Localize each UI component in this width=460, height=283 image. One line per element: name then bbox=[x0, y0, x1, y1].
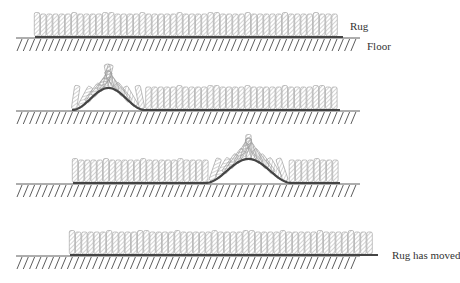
floor-hatch bbox=[231, 185, 236, 197]
floor-hatch bbox=[86, 185, 91, 197]
floor-hatch bbox=[23, 185, 28, 197]
floor-hatch bbox=[168, 112, 173, 124]
floor-hatch bbox=[130, 39, 135, 51]
floor-hatch bbox=[80, 185, 85, 197]
floor-hatch bbox=[99, 112, 104, 124]
floor-hatch bbox=[313, 39, 318, 51]
rug-pile-fibers bbox=[72, 134, 338, 182]
floor-hatch bbox=[250, 112, 255, 124]
floor-hatch bbox=[67, 112, 72, 124]
floor-hatch bbox=[112, 39, 117, 51]
floor-hatch bbox=[351, 39, 356, 51]
floor-hatch bbox=[231, 39, 236, 51]
floor-hatch bbox=[105, 39, 110, 51]
floor-hatch bbox=[124, 185, 129, 197]
floor-hatch bbox=[80, 39, 85, 51]
floor-hatch bbox=[80, 257, 85, 269]
floor-hatch bbox=[231, 112, 236, 124]
floor-hatch bbox=[61, 185, 66, 197]
floor-hatch bbox=[181, 257, 186, 269]
floor-hatch bbox=[49, 257, 54, 269]
floor-hatch bbox=[301, 112, 306, 124]
floor-hatch bbox=[168, 185, 173, 197]
floor-hatch bbox=[181, 39, 186, 51]
floor-hatch bbox=[319, 257, 324, 269]
floor-hatch bbox=[175, 112, 180, 124]
floor-hatch bbox=[187, 185, 192, 197]
floor-hatch bbox=[61, 257, 66, 269]
floor-hatch bbox=[206, 112, 211, 124]
floor-hatch bbox=[175, 185, 180, 197]
floor-hatch bbox=[206, 39, 211, 51]
floor-hatch bbox=[269, 257, 274, 269]
floor-hatch bbox=[36, 112, 41, 124]
floor-hatch bbox=[225, 185, 230, 197]
floor-hatch bbox=[55, 112, 60, 124]
floor-hatch bbox=[156, 185, 161, 197]
floor-hatch bbox=[288, 257, 293, 269]
floor-hatch bbox=[351, 185, 356, 197]
floor-hatch bbox=[288, 112, 293, 124]
floor-hatch bbox=[282, 112, 287, 124]
floor-hatch bbox=[250, 185, 255, 197]
floor-hatch bbox=[130, 112, 135, 124]
floor-hatch bbox=[332, 185, 337, 197]
floor-hatch bbox=[105, 185, 110, 197]
floor-hatch bbox=[42, 112, 47, 124]
floor-hatch bbox=[162, 112, 167, 124]
floor-hatch bbox=[30, 112, 35, 124]
floor-hatch bbox=[219, 112, 224, 124]
floor-hatch bbox=[212, 185, 217, 197]
floor-hatch bbox=[200, 112, 205, 124]
floor-hatch bbox=[93, 185, 98, 197]
floor-label: Floor bbox=[367, 40, 391, 52]
floor-hatch bbox=[275, 185, 280, 197]
floor-hatch bbox=[313, 112, 318, 124]
rug-pile-fibers bbox=[34, 13, 337, 37]
floor-hatch bbox=[23, 257, 28, 269]
floor-hatch bbox=[200, 257, 205, 269]
floor-hatch bbox=[238, 257, 243, 269]
floor-hatch bbox=[332, 39, 337, 51]
floor-hatch bbox=[55, 39, 60, 51]
floor-hatch bbox=[282, 39, 287, 51]
floor-hatch bbox=[181, 185, 186, 197]
floor-hatch bbox=[175, 257, 180, 269]
floor-hatch bbox=[118, 112, 123, 124]
floor-hatch bbox=[345, 39, 350, 51]
floor-hatch bbox=[351, 112, 356, 124]
floor-hatch bbox=[137, 257, 142, 269]
floor-hatch bbox=[256, 185, 261, 197]
floor-hatch bbox=[338, 185, 343, 197]
floor-hatch bbox=[187, 257, 192, 269]
floor-hatch bbox=[212, 112, 217, 124]
floor-hatch bbox=[219, 185, 224, 197]
floor-hatch bbox=[30, 185, 35, 197]
floor-hatch bbox=[326, 112, 331, 124]
floor-hatch bbox=[149, 257, 154, 269]
floor-hatch bbox=[124, 257, 129, 269]
floor-hatch bbox=[193, 112, 198, 124]
floor-hatch bbox=[36, 39, 41, 51]
floor-hatch bbox=[86, 257, 91, 269]
floor-hatch bbox=[332, 112, 337, 124]
floor-hatch bbox=[193, 39, 198, 51]
floor-hatch bbox=[137, 39, 142, 51]
floor-hatch bbox=[99, 185, 104, 197]
floor-hatch bbox=[93, 112, 98, 124]
floor-hatch bbox=[74, 257, 79, 269]
floor-hatch bbox=[36, 257, 41, 269]
rug-has-moved-label: Rug has moved bbox=[392, 249, 460, 261]
floor-hatch bbox=[61, 112, 66, 124]
floor-hatch bbox=[137, 112, 142, 124]
floor-hatch bbox=[118, 185, 123, 197]
floor-hatch bbox=[238, 185, 243, 197]
floor-hatch bbox=[99, 39, 104, 51]
floor-hatch bbox=[67, 185, 72, 197]
floor-hatch bbox=[275, 39, 280, 51]
floor-hatch bbox=[187, 39, 192, 51]
floor-hatch bbox=[149, 112, 154, 124]
floor-hatch bbox=[219, 257, 224, 269]
floor-hatch bbox=[181, 112, 186, 124]
floor-hatch bbox=[99, 257, 104, 269]
